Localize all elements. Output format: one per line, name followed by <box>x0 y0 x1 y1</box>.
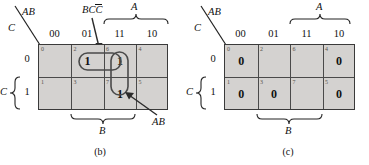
row-header-1-b: 1 <box>20 86 34 97</box>
cell-value: 0 <box>323 54 355 69</box>
kmap-figure-b: AB C BCC A 00 01 11 10 0 1 C 0 2 1 <box>0 0 190 165</box>
kmap-cell-c-0[interactable]: 0 0 <box>225 45 258 77</box>
cell-value: 0 <box>323 86 355 101</box>
axis-label-c-c: C <box>194 22 201 33</box>
cell-value: 1 <box>104 54 136 69</box>
col-header-01-b: 01 <box>71 28 103 39</box>
col-header-11-b: 11 <box>103 28 136 39</box>
cell-index: 7 <box>293 78 296 86</box>
cell-index: 7 <box>106 78 109 86</box>
axis-label-ab-b: AB <box>22 6 35 17</box>
group-label-c-b: C <box>0 86 7 97</box>
col-header-00-c: 00 <box>224 28 257 39</box>
kmap-cell-b-6[interactable]: 6 1 <box>104 45 136 77</box>
kmap-grid-c: 0 0 2 6 4 0 1 0 3 0 7 5 0 <box>224 44 355 110</box>
cell-value: 1 <box>104 86 136 101</box>
kmap-cell-c-1[interactable]: 1 0 <box>225 78 258 110</box>
kmap-cell-c-3[interactable]: 3 0 <box>258 78 290 110</box>
group-label-a-b: A <box>131 1 137 12</box>
cell-value: 0 <box>225 86 258 101</box>
kmap-cell-b-0[interactable]: 0 <box>39 45 71 77</box>
cell-index: 1 <box>227 78 230 86</box>
cell-index: 4 <box>139 45 142 53</box>
cell-index: 4 <box>325 45 328 53</box>
axis-label-c-b: C <box>8 22 15 33</box>
col-header-10-c: 10 <box>323 28 355 39</box>
annotation-bc-text: BC <box>82 4 95 15</box>
kmap-cell-b-5[interactable]: 5 <box>137 78 169 110</box>
group-label-b-b: B <box>99 125 105 136</box>
kmap-cell-b-2[interactable]: 2 1 <box>72 45 104 77</box>
col-header-11-c: 11 <box>290 28 323 39</box>
row-header-0-c: 0 <box>206 53 220 64</box>
kmap-cell-c-6[interactable]: 6 <box>291 45 323 77</box>
kmap-cell-c-4[interactable]: 4 0 <box>323 45 355 77</box>
cell-value: 0 <box>258 86 290 101</box>
kmap-cell-c-2[interactable]: 2 <box>258 45 290 77</box>
kmap-cell-c-5[interactable]: 5 0 <box>323 78 355 110</box>
col-header-10-b: 10 <box>136 28 168 39</box>
col-header-01-c: 01 <box>257 28 290 39</box>
axis-label-ab-c: AB <box>208 6 221 17</box>
kmap-figure-c: AB C A 00 01 11 10 0 1 C 0 0 2 6 4 <box>186 0 369 165</box>
kmap-cell-b-4[interactable]: 4 <box>137 45 169 77</box>
cell-index: 3 <box>74 78 77 86</box>
kmap-grid-b: 0 2 1 6 1 4 1 3 7 1 5 <box>38 44 168 110</box>
row-header-0-b: 0 <box>20 53 34 64</box>
cell-index: 5 <box>325 78 328 86</box>
cell-index: 3 <box>260 78 263 86</box>
cell-index: 0 <box>41 45 44 53</box>
annotation-ab-b: AB <box>152 116 165 127</box>
annotation-bc-bar-b: BCC <box>82 4 102 15</box>
cell-index: 2 <box>260 45 263 53</box>
caption-c: (c) <box>248 146 328 157</box>
group-label-c-c: C <box>186 86 193 97</box>
annotation-c-overbar: C <box>95 4 102 15</box>
kmap-cell-c-7[interactable]: 7 <box>291 78 323 110</box>
cell-index: 6 <box>106 45 109 53</box>
kmap-cell-b-3[interactable]: 3 <box>72 78 104 110</box>
row-header-1-c: 1 <box>206 86 220 97</box>
caption-b: (b) <box>60 146 140 157</box>
group-label-b-c: B <box>285 125 291 136</box>
cell-index: 1 <box>41 78 44 86</box>
kmap-cell-b-7[interactable]: 7 1 <box>104 78 136 110</box>
col-header-00-b: 00 <box>38 28 71 39</box>
cell-value: 1 <box>72 54 104 69</box>
cell-index: 0 <box>227 45 230 53</box>
cell-value: 0 <box>225 54 258 69</box>
group-label-a-c: A <box>316 1 322 12</box>
cell-index: 5 <box>139 78 142 86</box>
cell-index: 2 <box>74 45 77 53</box>
cell-index: 6 <box>293 45 296 53</box>
kmap-cell-b-1[interactable]: 1 <box>39 78 71 110</box>
